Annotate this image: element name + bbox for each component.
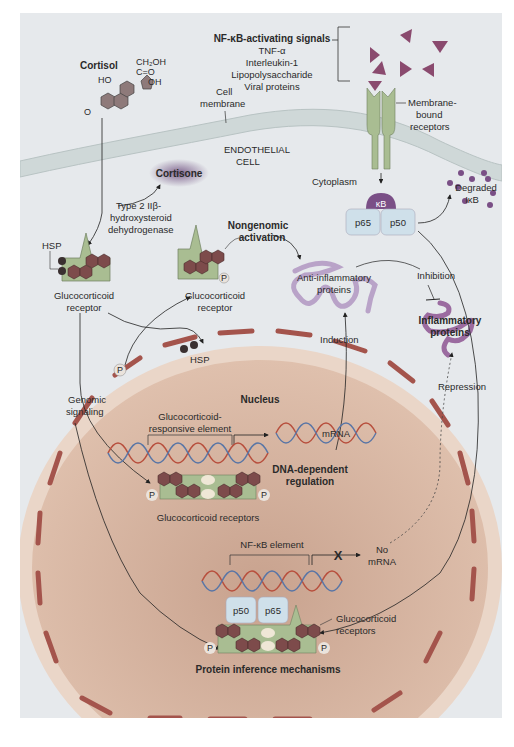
svg-text:NF-κB-activating signals: NF-κB-activating signals xyxy=(214,33,331,44)
svg-text:C=O: C=O xyxy=(136,67,155,77)
svg-text:dehydrogenase: dehydrogenase xyxy=(108,224,174,235)
gre-label: Glucocorticoid- xyxy=(158,411,221,422)
svg-text:receptor: receptor xyxy=(198,302,233,313)
svg-text:mRNA: mRNA xyxy=(368,556,397,567)
svg-text:Glucocorticoid: Glucocorticoid xyxy=(336,613,396,624)
anti-inflammatory-proteins: Anti-inflammatory proteins xyxy=(294,263,375,311)
mrna-label: mRNA xyxy=(322,428,351,439)
dna-dependent-label: DNA-dependent xyxy=(272,464,348,475)
svg-text:P: P xyxy=(261,490,267,500)
svg-text:activation: activation xyxy=(239,232,286,243)
svg-text:receptors: receptors xyxy=(410,121,450,132)
svg-text:HSP: HSP xyxy=(190,354,210,365)
svg-text:Lipopolysaccharide: Lipopolysaccharide xyxy=(231,69,312,80)
svg-text:TNF-α: TNF-α xyxy=(258,45,286,56)
cortisol-molecule: Cortisol CH₂OH C=O HO OH O xyxy=(80,57,166,117)
inflammatory-proteins: Inflammatory proteins xyxy=(419,303,482,355)
genomic-signaling-label: Genomic xyxy=(68,394,106,405)
svg-text:p50: p50 xyxy=(390,217,406,228)
nucleus-label: Nucleus xyxy=(241,394,280,405)
svg-text:Cortisol: Cortisol xyxy=(80,60,118,71)
nfkb-signals: NF-κB-activating signals TNF-α Interleuk… xyxy=(214,27,448,92)
svg-text:P: P xyxy=(117,365,123,375)
cytoplasm-label: Cytoplasm xyxy=(312,176,357,187)
svg-text:proteins: proteins xyxy=(317,284,351,295)
no-mrna-label: No xyxy=(376,544,388,555)
svg-text:O: O xyxy=(84,107,91,117)
cell-membrane-label-2: membrane xyxy=(200,98,245,109)
phosphate-label: P xyxy=(221,273,227,283)
cortisone-label: Cortisone xyxy=(156,168,203,179)
activated-glucocorticoid-receptor: P Glucocorticoid receptor xyxy=(178,225,245,313)
svg-text:HO: HO xyxy=(98,75,112,85)
svg-text:Viral proteins: Viral proteins xyxy=(244,81,300,92)
svg-text:p65: p65 xyxy=(265,605,281,616)
diagram-canvas: Cortisol CH₂OH C=O HO OH O Cell membrane… xyxy=(20,13,502,718)
svg-text:P: P xyxy=(207,643,213,653)
svg-text:regulation: regulation xyxy=(286,476,334,487)
induction-label: Induction xyxy=(320,334,359,345)
svg-text:Inflammatory: Inflammatory xyxy=(419,315,482,326)
svg-text:P: P xyxy=(149,490,155,500)
svg-text:responsive element: responsive element xyxy=(149,423,232,434)
endothelial-cell-label: ENDOTHELIAL xyxy=(224,144,290,155)
figure-caption-cropped xyxy=(8,727,508,741)
svg-text:bound: bound xyxy=(416,109,442,120)
svg-text:Interleukin-1: Interleukin-1 xyxy=(246,57,298,68)
svg-text:signaling: signaling xyxy=(66,406,104,417)
svg-text:p50: p50 xyxy=(233,605,249,616)
svg-text:hydroxysteroid: hydroxysteroid xyxy=(110,212,172,223)
cell-membrane-label: Cell xyxy=(216,86,232,97)
svg-text:OH: OH xyxy=(148,77,162,87)
svg-text:Anti-inflammatory: Anti-inflammatory xyxy=(297,272,371,283)
svg-text:receptors: receptors xyxy=(336,625,376,636)
svg-text:receptor: receptor xyxy=(67,302,102,313)
nfkb-complex-cytoplasm: κB p65 p50 xyxy=(346,193,415,235)
nongenomic-label: Nongenomic xyxy=(228,220,289,231)
svg-text:Glucocorticoid: Glucocorticoid xyxy=(185,290,245,301)
svg-text:proteins: proteins xyxy=(430,327,470,338)
block-mark: X xyxy=(334,548,343,563)
hsp-label: HSP xyxy=(42,240,62,251)
nfkb-element-label: NF-κB element xyxy=(240,539,304,550)
signal-triangles xyxy=(368,29,448,91)
nucleus xyxy=(25,331,495,718)
gr-dimer-dna-bound: P P Glucocorticoid receptors xyxy=(146,472,270,523)
svg-text:P: P xyxy=(321,643,327,653)
endothelial-cell-label-2: CELL xyxy=(236,156,260,167)
svg-text:Protein inference mechanisms: Protein inference mechanisms xyxy=(195,664,340,675)
svg-text:κB: κB xyxy=(376,199,387,209)
svg-text:Glucocorticoid: Glucocorticoid xyxy=(54,290,114,301)
inhibition-label: Inhibition xyxy=(417,270,455,281)
svg-text:Glucocorticoid receptors: Glucocorticoid receptors xyxy=(157,512,260,523)
svg-text:IκB: IκB xyxy=(465,194,479,205)
svg-text:p65: p65 xyxy=(355,217,371,228)
glucocorticoid-receptor-hsp-complex: HSP Glucocorticoid receptor xyxy=(42,233,114,313)
figure-panel: Cortisol CH₂OH C=O HO OH O Cell membrane… xyxy=(20,13,502,718)
svg-text:Membrane-: Membrane- xyxy=(408,97,457,108)
svg-text:CH₂OH: CH₂OH xyxy=(136,57,166,67)
svg-text:Degraded: Degraded xyxy=(455,182,497,193)
